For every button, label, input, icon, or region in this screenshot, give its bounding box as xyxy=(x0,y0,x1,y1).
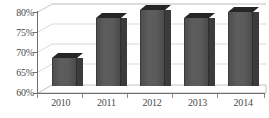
bar-side-face xyxy=(209,18,215,86)
y-axis-tick-label: 70% xyxy=(2,48,34,58)
bar-front-face xyxy=(228,12,253,86)
x-axis-tick-label: 2012 xyxy=(129,97,175,115)
y-axis-labels: 80% 75% 70% 65% 60% xyxy=(2,0,34,118)
bar-2011 xyxy=(96,18,121,86)
x-axis-tick-label: 2013 xyxy=(175,97,221,115)
bar-front-face xyxy=(140,10,165,86)
bar-front-face xyxy=(184,18,209,86)
x-axis-tick-label: 2011 xyxy=(84,97,130,115)
bars-layer xyxy=(38,4,266,94)
x-axis-tick-label: 2010 xyxy=(38,97,84,115)
bar-side-face xyxy=(121,18,127,86)
bar-side-face xyxy=(77,58,83,86)
bar-2010 xyxy=(52,58,77,86)
x-axis-tick-label: 2014 xyxy=(220,97,266,115)
bar-side-face xyxy=(253,12,259,86)
bar-2013 xyxy=(184,18,209,86)
bar-2012 xyxy=(140,10,165,86)
bar-chart: 80% 75% 70% 65% 60% xyxy=(0,0,269,118)
bar-front-face xyxy=(52,58,77,86)
bar-front-face xyxy=(96,18,121,86)
y-axis-tick-label: 60% xyxy=(2,88,34,98)
x-axis-line xyxy=(37,93,265,94)
y-axis-tick-label: 65% xyxy=(2,68,34,78)
x-axis-labels: 2010 2011 2012 2013 2014 xyxy=(38,97,266,115)
bar-side-face xyxy=(165,10,171,86)
y-axis-tick-label: 75% xyxy=(2,28,34,38)
bar-2014 xyxy=(228,12,253,86)
y-axis-tick-label: 80% xyxy=(2,8,34,18)
plot-area xyxy=(38,4,266,94)
